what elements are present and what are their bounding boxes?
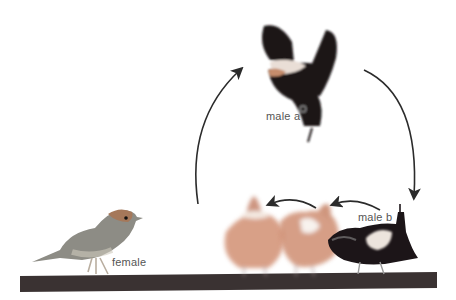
diagram-illustration — [0, 0, 456, 300]
arrow-pose-to-1 — [270, 200, 316, 208]
branch — [20, 272, 437, 292]
male-a-bird — [262, 25, 337, 142]
male-b-label: male b — [358, 211, 392, 223]
male-a-label: male a — [266, 110, 300, 122]
courtship-diagram: female male a male b — [0, 0, 456, 300]
female-label: female — [112, 256, 146, 268]
arrow-up-left — [196, 70, 240, 204]
display-pose-1-bird — [225, 196, 285, 276]
arrow-pose-to-b — [334, 201, 380, 210]
arrow-down-right — [364, 70, 415, 196]
